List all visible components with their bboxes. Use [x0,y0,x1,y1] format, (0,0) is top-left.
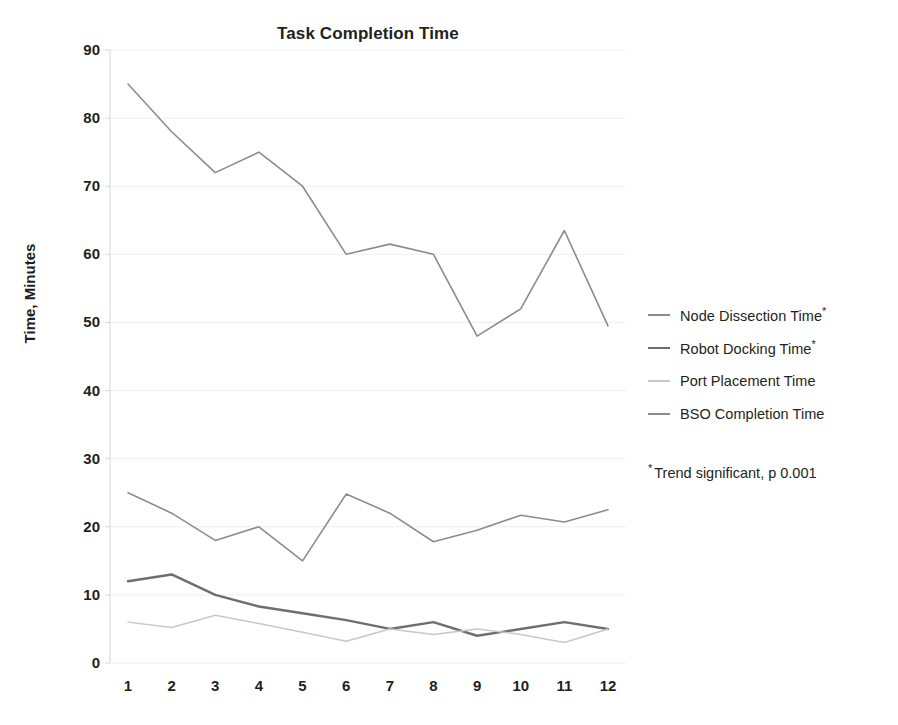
plot-area [110,50,626,663]
chart-title: Task Completion Time [128,24,608,44]
x-axis-tick-label: 11 [544,678,584,693]
legend-item-label: Port Placement Time [680,373,816,389]
x-axis-tick-labels: 123456789101112 [110,678,626,700]
x-axis-tick-label: 7 [370,678,410,693]
plot-svg [110,50,626,663]
legend-line-swatch [648,413,670,415]
legend-item: Node Dissection Time* [648,298,892,331]
legend-line-swatch [648,347,670,349]
x-axis-tick-label: 5 [283,678,323,693]
y-axis-tick-label: 30 [60,451,100,466]
legend-significance-marker: * [811,338,815,350]
legend-significance-marker: * [822,305,826,317]
axis-lines [105,50,110,663]
x-axis-tick-label: 4 [239,678,279,693]
legend-item: Robot Docking Time* [648,331,892,364]
legend-item-label: Robot Docking Time* [680,338,816,357]
legend-note: *Trend significant, p 0.001 [648,462,892,481]
legend-line-swatch [648,380,670,382]
series-lines [128,84,608,643]
chart-legend: Node Dissection Time*Robot Docking Time*… [648,298,892,430]
series-line [128,84,608,336]
x-axis-tick-label: 2 [152,678,192,693]
legend-note-marker: * [648,462,652,474]
y-axis-tick-label: 50 [60,314,100,329]
chart-figure: Task Completion Time Time, Minutes 01020… [0,0,898,725]
y-axis-tick-labels: 0102030405060708090 [56,50,100,663]
legend-item: BSO Completion Time [648,397,892,430]
legend-item-label: Node Dissection Time* [680,305,826,324]
y-axis-tick-label: 10 [60,587,100,602]
legend-item: Port Placement Time [648,364,892,397]
y-axis-tick-label: 90 [60,42,100,57]
x-axis-tick-label: 6 [326,678,366,693]
y-axis-tick-label: 40 [60,383,100,398]
y-axis-tick-label: 70 [60,178,100,193]
x-axis-tick-label: 3 [195,678,235,693]
gridlines [110,50,626,663]
y-axis-title: Time, Minutes [21,219,38,369]
x-axis-tick-label: 9 [457,678,497,693]
x-axis-tick-label: 8 [413,678,453,693]
legend-line-swatch [648,314,670,316]
series-line [128,574,608,635]
x-axis-tick-label: 10 [501,678,541,693]
y-axis-tick-label: 20 [60,519,100,534]
x-axis-tick-label: 12 [588,678,628,693]
legend-item-label: BSO Completion Time [680,406,824,422]
series-line [128,615,608,642]
y-axis-tick-label: 60 [60,246,100,261]
y-axis-tick-label: 80 [60,110,100,125]
legend-note-text: Trend significant, p 0.001 [654,465,816,481]
x-axis-tick-label: 1 [108,678,148,693]
y-axis-tick-label: 0 [60,655,100,670]
